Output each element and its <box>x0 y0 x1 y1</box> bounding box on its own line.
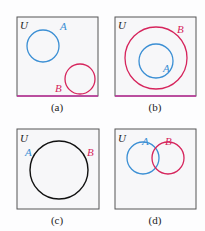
universe-box-d <box>115 129 196 209</box>
set-b-label: B <box>55 82 62 94</box>
caption-c: (c) <box>51 214 64 227</box>
panel-d: U A B (d) <box>115 129 196 227</box>
venn-diagram-figure: U A B (a) U B A (b) U A B (c) U A B (d) <box>0 0 205 231</box>
universe-label-d: U <box>118 132 127 144</box>
set-a-label: A <box>59 20 67 32</box>
set-b-label: B <box>177 23 184 35</box>
caption-a: (a) <box>51 101 64 114</box>
caption-d: (d) <box>149 214 162 227</box>
panel-a: U A B (a) <box>17 17 98 114</box>
panel-c: U A B (c) <box>17 129 99 227</box>
universe-label-c: U <box>20 132 29 144</box>
set-b-label: B <box>87 146 94 158</box>
set-a-label: A <box>141 135 149 147</box>
set-a-label: A <box>24 146 32 158</box>
caption-b: (b) <box>149 101 162 114</box>
universe-label-b: U <box>118 19 127 31</box>
panel-b: U B A (b) <box>115 17 196 114</box>
universe-label-a: U <box>20 19 29 31</box>
set-b-label: B <box>165 135 172 147</box>
set-a-label: A <box>162 62 170 74</box>
universe-box-b <box>115 17 196 96</box>
